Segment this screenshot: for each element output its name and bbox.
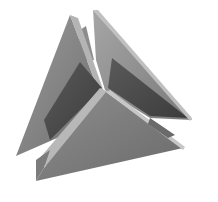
triangular-sculpture <box>0 0 218 202</box>
